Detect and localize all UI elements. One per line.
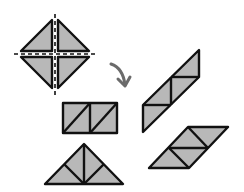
tall-parallelogram-arrangement <box>143 50 199 132</box>
triangle-arrangement <box>45 144 123 184</box>
source-triangle-bottom-right <box>58 57 89 88</box>
cut-square-diagram <box>0 0 244 192</box>
wide-parallelogram-arrangement <box>149 127 228 168</box>
source-triangle-bottom-left <box>21 57 52 88</box>
source-square <box>14 14 96 95</box>
rectangle-arrangement <box>63 103 117 133</box>
source-triangle-top-right <box>58 20 89 51</box>
source-triangle-top-left <box>21 20 52 51</box>
curved-arrow-icon <box>111 64 130 86</box>
